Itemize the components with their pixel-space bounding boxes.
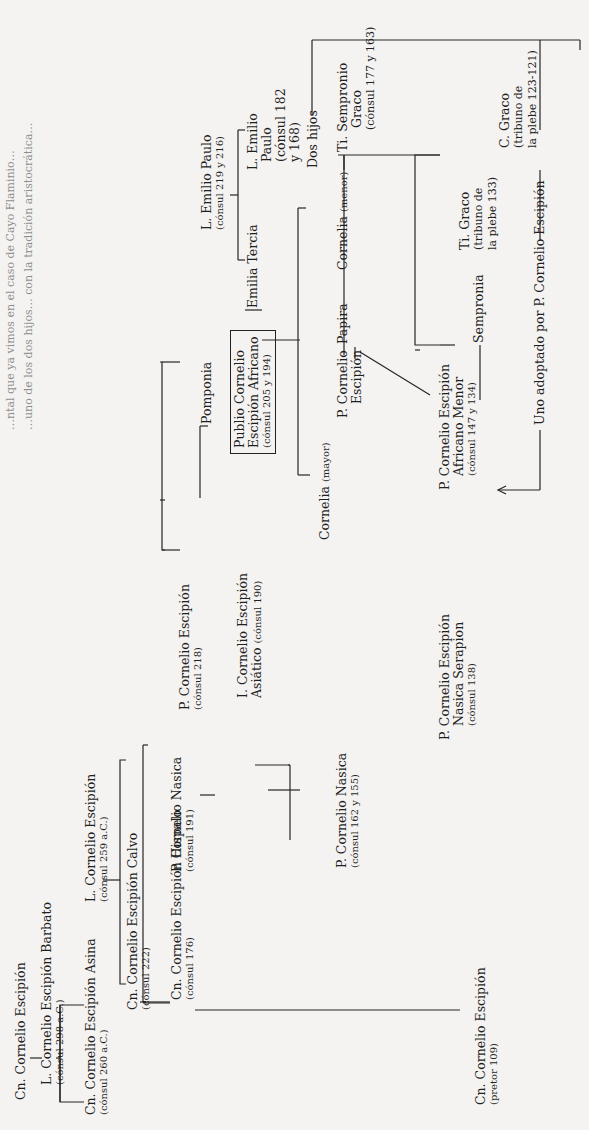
- node-subtitle: (cónsul 259 a.C.): [98, 774, 110, 902]
- node-subtitle-line2: la plebe 123-121): [526, 50, 540, 148]
- node-africano-menor: P. Cornelio Escipión Africano Menor (cón…: [438, 364, 478, 490]
- node-calvo: Cn. Cornelio Escipión Calvo (cónsul 222): [126, 833, 152, 1010]
- node-name-line2: Paulo: [260, 88, 274, 170]
- page-text-fragment-1: …ntal que ya vimos en el caso de Cayo Fl…: [4, 150, 17, 430]
- node-subtitle: (cónsul 222): [140, 833, 152, 1010]
- node-cn-cornelio-escipion-root: Cn. Cornelio Escipión: [14, 962, 28, 1100]
- node-qualifier: (menor): [338, 172, 349, 212]
- node-pretor-109: Cn. Cornelio Escipión (pretor 109): [474, 967, 500, 1105]
- node-qualifier: (mayor): [320, 442, 331, 482]
- node-emilio-paulo: L. Emilio Paulo (cónsul 219 y 216): [200, 134, 226, 230]
- node-name-line1: Publio Cornelio: [233, 336, 247, 448]
- node-name: Emilia Tercia: [246, 224, 260, 308]
- node-p-cornelio-escipion-son: P. Cornelio Escipión: [336, 350, 364, 418]
- node-c-graco: C. Graco (tribuno de la plebe 123-121): [498, 50, 540, 148]
- node-name: Sempronia: [472, 274, 486, 343]
- node-name-line1: C. Graco: [498, 50, 512, 148]
- node-adoptado: Uno adoptado por P. Cornelio Escipión: [533, 181, 547, 425]
- node-name-line2: Escipión: [350, 350, 364, 418]
- node-name: L. Emilio Paulo: [200, 134, 214, 230]
- node-subtitle: (cónsul 177 y 163): [364, 27, 378, 152]
- node-subtitle: (cónsul 162 y 155): [349, 753, 361, 868]
- node-barbato: L. Cornelio Escipión Barbato (cónsul 298…: [40, 902, 66, 1085]
- node-dos-hijos: Dos hijos: [306, 110, 320, 168]
- page-text-fragment-2: …uno de los dos hijos… con la tradición …: [22, 123, 35, 430]
- node-asina: Cn. Cornelio Escipión Asina (cónsul 260 …: [84, 938, 110, 1115]
- node-name-line2: Asiático: [249, 648, 264, 698]
- family-tree-diagram: Cn. Cornelio Escipión L. Cornelio Escipi…: [0, 0, 589, 1130]
- node-name-line1: P. Cornelio Escipión: [438, 364, 452, 490]
- node-name: L. Cornelio Escipión: [84, 774, 98, 902]
- node-africano-highlighted: Publio Cornelio Escipión Africano (cónsu…: [230, 330, 276, 454]
- node-subtitle: (cónsul 219 y 216): [214, 134, 226, 230]
- node-name: P. Cornelio Nasica: [170, 757, 184, 872]
- node-name: Cn. Cornelio Escipión: [14, 962, 28, 1100]
- node-subtitle: (cónsul 218): [192, 584, 204, 710]
- node-name: Cornelia: [317, 486, 332, 540]
- node-subtitle: (cónsul 205 y 194): [261, 336, 273, 448]
- node-name-line1: P. Cornelio Escipión: [438, 614, 452, 740]
- node-subtitle-line2: y 168): [288, 88, 302, 170]
- node-pomponia: Pomponia: [200, 362, 214, 424]
- node-name: L. Cornelio Escipión Barbato: [40, 902, 54, 1085]
- node-name: Cn. Cornelio Escipión: [474, 967, 488, 1105]
- node-nasica-serapion: P. Cornelio Escipión Nasica Serapion (có…: [438, 614, 478, 740]
- node-subtitle-line1: (tribuno de: [472, 177, 486, 250]
- node-sempronia: Sempronia: [472, 274, 486, 343]
- node-l-cornelio-259: L. Cornelio Escipión (cónsul 259 a.C.): [84, 774, 110, 902]
- node-ti-sempronio-graco: Ti. Sempronio Graco (cónsul 177 y 163): [336, 27, 378, 152]
- node-name: Cn. Cornelio Escipión Calvo: [126, 833, 140, 1010]
- node-name-line2: Graco: [350, 27, 364, 152]
- node-cornelia-menor: Cornelia (menor): [336, 172, 351, 270]
- node-subtitle: (cónsul 190): [252, 581, 263, 644]
- node-subtitle-line1: (cónsul 182: [274, 88, 288, 170]
- node-name: Papira: [336, 303, 350, 344]
- node-name: Pomponia: [200, 362, 214, 424]
- node-subtitle: (cónsul 191): [184, 757, 196, 872]
- node-name-line1: L. Emilio: [246, 88, 260, 170]
- node-ti-graco: Ti. Graco (tribuno de la plebe 133): [458, 177, 500, 250]
- node-name: P. Cornelio Escipión: [178, 584, 192, 710]
- node-name-line2: Escipión Africano: [247, 336, 261, 448]
- node-name-line1: Ti. Graco: [458, 177, 472, 250]
- node-emilio-paulo-182: L. Emilio Paulo (cónsul 182 y 168): [246, 88, 302, 170]
- node-subtitle: (pretor 109): [488, 967, 500, 1105]
- node-emilia-tercia: Emilia Tercia: [246, 224, 260, 308]
- node-subtitle: (cónsul 298 a.C.): [54, 902, 66, 1085]
- node-subtitle: (cónsul 260 a.C.): [98, 938, 110, 1115]
- node-papira: Papira: [336, 303, 350, 344]
- node-asiatico: I. Cornelio Escipión Asiático (cónsul 19…: [236, 573, 265, 698]
- node-name: Cn. Cornelio Escipión Asina: [84, 938, 98, 1115]
- node-name-line1: P. Cornelio: [336, 350, 350, 418]
- node-name: I. Cornelio Escipión: [236, 573, 250, 698]
- node-p-cornelio-218: P. Cornelio Escipión (cónsul 218): [178, 584, 204, 710]
- node-subtitle: (cónsul 138): [466, 614, 478, 740]
- node-subtitle-line1: (tribuno de: [512, 50, 526, 148]
- node-nasica-162: P. Cornelio Nasica (cónsul 162 y 155): [335, 753, 361, 868]
- node-name-line2: Nasica Serapion: [452, 614, 466, 740]
- node-cornelia-mayor: Cornelia (mayor): [318, 442, 333, 540]
- node-nasica-191: P. Cornelio Nasica (cónsul 191): [170, 757, 196, 872]
- node-name: P. Cornelio Nasica: [335, 753, 349, 868]
- node-subtitle-line2: la plebe 133): [486, 177, 500, 250]
- node-name: Dos hijos: [306, 110, 320, 168]
- node-name: Cornelia: [335, 216, 350, 270]
- node-name: Uno adoptado por P. Cornelio Escipión: [533, 181, 547, 425]
- node-subtitle: (cónsul 147 y 134): [466, 364, 478, 490]
- node-name-line2: Africano Menor: [452, 364, 466, 490]
- node-name-line1: Ti. Sempronio: [336, 27, 350, 152]
